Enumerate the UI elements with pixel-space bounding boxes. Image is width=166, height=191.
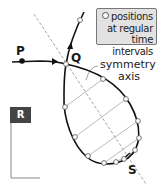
label-R: R [10, 107, 31, 123]
point-P-marker [19, 58, 25, 64]
axis-label-pointer [86, 66, 98, 80]
label-P: P [16, 44, 25, 58]
legend-line-3: time intervals [99, 34, 153, 57]
arrow-head-icon [67, 42, 73, 49]
label-Q: Q [71, 51, 81, 65]
time-interval-chords [65, 79, 139, 163]
legend-box: positions at regular time intervals [96, 8, 157, 45]
arrow-head-icon [52, 58, 58, 65]
legend-line-2: at regular [99, 23, 153, 35]
label-S: S [128, 163, 137, 177]
open-circle-icon [102, 12, 109, 19]
legend-line-1: positions [111, 11, 153, 22]
label-axis: axis [118, 70, 140, 83]
